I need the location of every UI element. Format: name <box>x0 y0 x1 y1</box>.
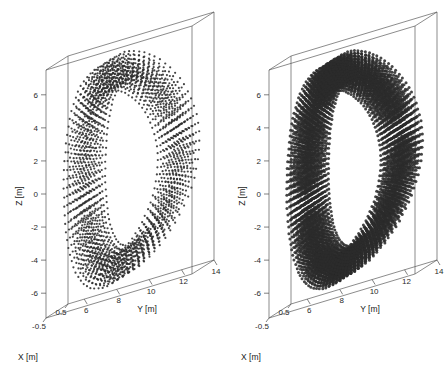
z-axis-title: Z [m] <box>237 186 247 205</box>
z-tick-label: 2 <box>34 157 39 166</box>
scatter3d-right: -6-4-20246Z [m]68101214Y [m]-0.50.5X [m] <box>223 0 446 383</box>
plot-panel-left: -6-4-20246Z [m]68101214Y [m]-0.50.5X [m] <box>0 0 223 383</box>
data-points <box>62 50 200 290</box>
y-axis-title: Y [m] <box>360 304 380 314</box>
x-tick-label: 0.5 <box>55 308 67 317</box>
y-tick-label: 10 <box>370 287 379 296</box>
x-tick-label: -0.5 <box>255 322 269 331</box>
z-tick-label: -2 <box>254 223 262 232</box>
figure-canvas: -6-4-20246Z [m]68101214Y [m]-0.50.5X [m]… <box>0 0 446 383</box>
z-tick-label: -6 <box>31 289 39 298</box>
z-tick-label: 6 <box>257 91 262 100</box>
scatter3d-left: -6-4-20246Z [m]68101214Y [m]-0.50.5X [m] <box>0 0 223 383</box>
z-axis-title: Z [m] <box>14 186 24 205</box>
z-tick-label: -4 <box>31 256 39 265</box>
y-tick-label: 8 <box>339 296 344 305</box>
x-tick-label: 0.5 <box>278 308 290 317</box>
x-tick-label: -0.5 <box>32 322 46 331</box>
plot-panel-right: -6-4-20246Z [m]68101214Y [m]-0.50.5X [m] <box>223 0 446 383</box>
y-tick-label: 12 <box>402 277 411 286</box>
z-tick-label: -6 <box>254 289 262 298</box>
z-tick-label: 4 <box>34 124 39 133</box>
z-tick-label: 0 <box>34 190 39 199</box>
x-axis-title: X [m] <box>241 352 261 362</box>
y-tick-label: 10 <box>147 287 156 296</box>
x-axis: -0.50.5X [m] <box>18 304 68 362</box>
z-tick-label: -4 <box>254 256 262 265</box>
x-axis-title: X [m] <box>18 352 38 362</box>
y-tick-label: 12 <box>179 277 188 286</box>
y-tick-label: 14 <box>435 267 444 276</box>
x-axis: -0.50.5X [m] <box>241 304 291 362</box>
y-tick-label: 14 <box>212 267 221 276</box>
data-points <box>285 49 424 290</box>
z-tick-label: 4 <box>257 124 262 133</box>
y-tick-label: 6 <box>84 306 89 315</box>
y-tick-label: 6 <box>307 306 312 315</box>
z-tick-label: 0 <box>257 190 262 199</box>
z-tick-label: 6 <box>34 91 39 100</box>
y-axis-title: Y [m] <box>137 304 157 314</box>
y-tick-label: 8 <box>116 296 121 305</box>
z-axis: -6-4-20246Z [m] <box>14 91 46 298</box>
z-tick-label: 2 <box>257 157 262 166</box>
z-tick-label: -2 <box>31 223 39 232</box>
z-axis: -6-4-20246Z [m] <box>237 91 269 298</box>
